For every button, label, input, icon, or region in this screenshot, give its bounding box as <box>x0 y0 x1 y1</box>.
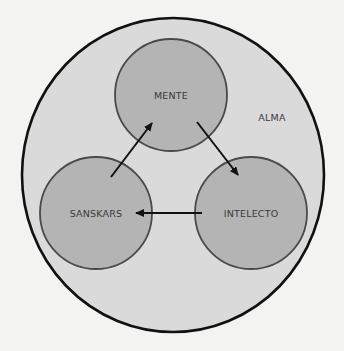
node-intelecto: INTELECTO <box>195 157 307 269</box>
alma-label: ALMA <box>258 112 286 123</box>
node-sanskars: SANSKARS <box>40 157 152 269</box>
mente-label: MENTE <box>154 90 188 101</box>
intelecto-label: INTELECTO <box>224 208 279 219</box>
sanskars-label: SANSKARS <box>70 208 123 219</box>
node-mente: MENTE <box>115 39 227 151</box>
soul-cycle-diagram: ALMA MENTESANSKARSINTELECTO <box>0 0 344 351</box>
